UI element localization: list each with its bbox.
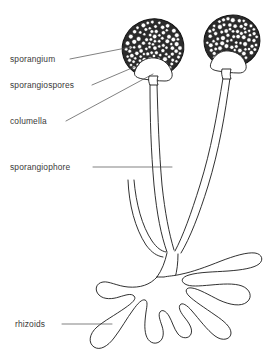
spore	[148, 27, 151, 30]
spore	[158, 34, 161, 37]
spore	[139, 55, 142, 58]
rhizopus-diagram: sporangium sporangiospores columella spo…	[0, 0, 271, 363]
spore	[161, 49, 165, 53]
spore	[231, 30, 234, 33]
spore	[239, 41, 242, 44]
spore	[236, 34, 240, 38]
spore	[132, 39, 137, 44]
spore	[141, 23, 146, 28]
spore	[212, 51, 216, 55]
spore	[148, 42, 151, 45]
spore	[150, 51, 153, 54]
spore	[233, 48, 236, 51]
spore	[212, 28, 215, 31]
spore	[226, 33, 230, 37]
spore	[233, 24, 237, 28]
spore	[217, 25, 222, 30]
spore	[243, 27, 246, 30]
spore	[158, 21, 161, 24]
spore	[214, 32, 218, 36]
spore	[216, 37, 220, 41]
sporangiophore-right-edge-outer	[175, 78, 223, 251]
spore	[172, 28, 177, 33]
spore	[222, 18, 226, 22]
spore	[242, 35, 247, 40]
spore	[151, 20, 155, 24]
spore	[214, 47, 218, 51]
spore	[238, 48, 242, 52]
spore	[125, 41, 130, 46]
spore	[215, 42, 219, 46]
spore	[224, 44, 229, 49]
spore	[129, 34, 134, 39]
spore	[237, 19, 241, 23]
spore	[152, 34, 156, 38]
spore	[255, 35, 258, 38]
spore	[235, 41, 238, 44]
spore	[136, 26, 139, 29]
spore	[226, 39, 229, 42]
spore	[142, 53, 145, 56]
spore	[226, 17, 230, 21]
sporangiophore-neck-left	[149, 76, 158, 85]
spore	[145, 38, 149, 42]
spore	[253, 48, 257, 52]
sporangiophore-short-edge-inner	[134, 180, 166, 252]
spore	[218, 20, 221, 23]
leader-line-sporangium	[70, 47, 131, 59]
spore	[178, 52, 181, 55]
spore	[208, 34, 212, 38]
label-sporangium: sporangium	[10, 54, 55, 64]
spore	[154, 29, 158, 33]
spore	[139, 49, 143, 53]
spore	[170, 62, 174, 66]
spore	[152, 54, 155, 57]
spore	[252, 28, 255, 31]
spore	[126, 55, 129, 58]
spore	[222, 23, 226, 27]
spore	[159, 53, 162, 56]
spore	[178, 46, 182, 50]
spore	[130, 53, 134, 57]
spore	[230, 39, 233, 42]
spore	[148, 45, 151, 48]
spore	[170, 52, 174, 56]
spore	[239, 24, 243, 28]
spore	[135, 51, 139, 55]
label-rhizoids: rhizoids	[15, 319, 45, 329]
sporangiophore-trunk-right	[175, 254, 178, 278]
spore	[161, 31, 165, 35]
spore	[236, 30, 240, 34]
spore	[249, 24, 253, 28]
spore	[244, 56, 247, 59]
spore	[175, 33, 180, 38]
spore	[129, 63, 132, 66]
spore	[209, 48, 213, 52]
spore	[142, 41, 146, 45]
spore	[252, 32, 256, 36]
spore	[151, 43, 154, 46]
spore	[220, 41, 225, 46]
spore	[144, 28, 148, 32]
spore	[208, 29, 212, 33]
spore	[133, 30, 137, 34]
spore	[206, 41, 209, 44]
spore	[249, 50, 253, 54]
rhizoid-outline	[90, 253, 262, 349]
spore	[165, 53, 168, 56]
spore	[239, 32, 243, 36]
spore	[145, 47, 148, 50]
spore	[139, 31, 142, 34]
spore	[128, 58, 132, 62]
spore	[150, 30, 154, 34]
sporangiophore-left-edge-outer	[150, 84, 167, 252]
spore	[212, 40, 215, 43]
spore	[149, 38, 152, 41]
spore	[167, 55, 170, 58]
spore	[234, 45, 238, 49]
spore	[224, 29, 228, 33]
spore	[158, 45, 161, 48]
spore	[213, 24, 216, 27]
spore	[220, 30, 224, 34]
spore	[153, 40, 156, 43]
